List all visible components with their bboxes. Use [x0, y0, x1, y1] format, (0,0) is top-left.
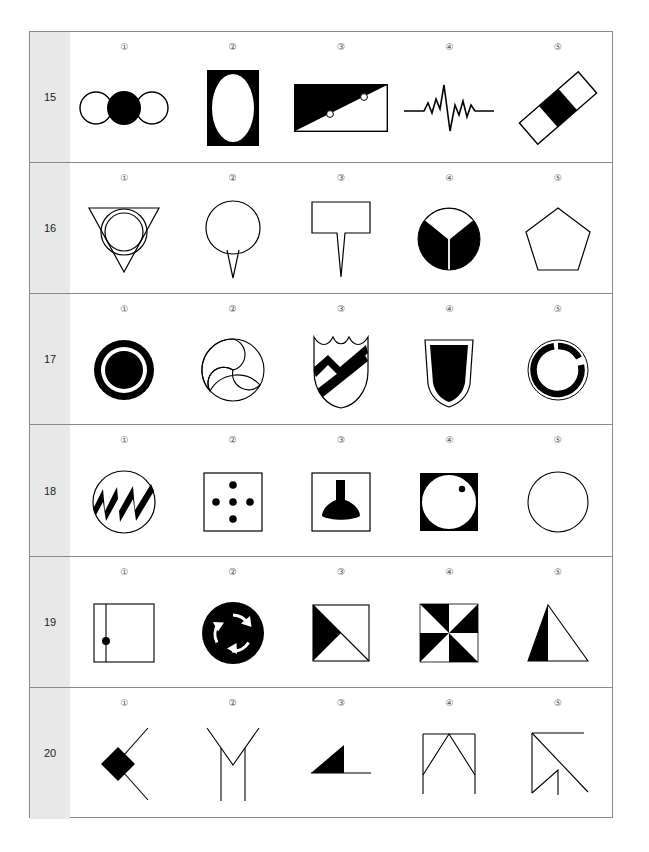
table-row: 20 ① ② [30, 688, 612, 819]
cell-15-3[interactable]: ③ [287, 32, 395, 162]
cell-15-1[interactable]: ① [70, 32, 178, 162]
double-circle-in-down-triangle-icon [70, 185, 178, 293]
column-marker: ① [120, 566, 128, 579]
white-ellipse-in-black-rectangle-icon [178, 54, 286, 162]
column-marker: ② [229, 566, 237, 579]
cell-16-1[interactable]: ① [70, 163, 178, 293]
circle-with-black-zigzag-icon [70, 447, 178, 555]
cell-19-2[interactable]: ② [178, 557, 286, 687]
column-marker: ⑤ [554, 434, 562, 447]
column-marker: ① [120, 697, 128, 710]
black-filled-shield-badge-icon [395, 316, 503, 424]
cell-17-5[interactable]: ⑤ [504, 294, 612, 424]
worksheet-page: 15 ① ② [0, 0, 649, 852]
column-marker: ① [120, 172, 128, 185]
double-stroke-y-shape-icon [178, 710, 286, 819]
column-marker: ④ [445, 697, 453, 710]
cell-17-2[interactable]: ② [178, 294, 286, 424]
column-marker: ④ [445, 434, 453, 447]
triangle-left-half-black-icon [504, 579, 612, 687]
row-number-label: 16 [30, 163, 70, 293]
square-with-five-dots-icon [178, 447, 286, 555]
row-cells: ① ② [70, 163, 612, 293]
cell-19-4[interactable]: ④ [395, 557, 503, 687]
square-with-vertical-line-and-dot-icon [70, 579, 178, 687]
column-marker: ⑤ [554, 172, 562, 185]
column-marker: ③ [337, 566, 345, 579]
column-marker: ③ [337, 697, 345, 710]
zigzag-waveform-line-icon [395, 54, 503, 162]
row-number-label: 20 [30, 688, 70, 819]
table-row: 16 ① ② [30, 163, 612, 294]
row-number-label: 15 [30, 32, 70, 162]
table-row: 15 ① ② [30, 32, 612, 163]
cell-19-5[interactable]: ⑤ [504, 557, 612, 687]
column-marker: ③ [337, 41, 345, 54]
cell-20-1[interactable]: ① [70, 688, 178, 819]
column-marker: ② [229, 41, 237, 54]
cell-15-2[interactable]: ② [178, 32, 286, 162]
circle-with-pin-tail-icon [178, 185, 286, 293]
table-row: 19 ① ② [30, 557, 612, 688]
cell-17-3[interactable]: ③ [287, 294, 395, 424]
row-number-label: 19 [30, 557, 70, 687]
cell-17-1[interactable]: ① [70, 294, 178, 424]
plain-outlined-circle-icon [504, 447, 612, 555]
column-marker: ④ [445, 566, 453, 579]
bullseye-ring-with-disc-icon [70, 316, 178, 424]
row-cells: ① ② [70, 425, 612, 555]
column-marker: ① [120, 434, 128, 447]
cell-18-2[interactable]: ② [178, 425, 286, 555]
row-number-label: 17 [30, 294, 70, 424]
column-marker: ② [229, 697, 237, 710]
triskelion-swirl-circle-icon [178, 316, 286, 424]
pinwheel-checker-square-icon [395, 579, 503, 687]
square-with-diagonals-and-stem-icon [504, 710, 612, 819]
cell-17-4[interactable]: ④ [395, 294, 503, 424]
cell-18-5[interactable]: ⑤ [504, 425, 612, 555]
column-marker: ④ [445, 172, 453, 185]
column-marker: ③ [337, 303, 345, 316]
cell-16-2[interactable]: ② [178, 163, 286, 293]
three-circles-middle-filled-icon [70, 54, 178, 162]
half-filled-rectangle-diagonal-dots-icon [287, 54, 395, 162]
cell-20-3[interactable]: ③ [287, 688, 395, 819]
row-cells: ① ② [70, 32, 612, 162]
shield-with-lightning-stripes-icon [287, 316, 395, 424]
rectangle-with-pin-tail-icon [287, 185, 395, 293]
cell-20-5[interactable]: ⑤ [504, 688, 612, 819]
black-circle-white-pie-wedge-icon [395, 185, 503, 293]
cell-20-2[interactable]: ② [178, 688, 286, 819]
white-circle-in-black-square-with-dot-icon [395, 447, 503, 555]
cell-16-4[interactable]: ④ [395, 163, 503, 293]
square-half-black-triangle-icon [287, 579, 395, 687]
shapes-table: 15 ① ② [29, 31, 613, 818]
column-marker: ⑤ [554, 303, 562, 316]
column-marker: ① [120, 41, 128, 54]
table-row: 18 ① ② [30, 425, 612, 556]
cell-18-1[interactable]: ① [70, 425, 178, 555]
column-marker: ⑤ [554, 41, 562, 54]
cell-20-4[interactable]: ④ [395, 688, 503, 819]
cell-15-5[interactable]: ⑤ [504, 32, 612, 162]
cell-16-5[interactable]: ⑤ [504, 163, 612, 293]
cell-18-4[interactable]: ④ [395, 425, 503, 555]
cell-15-4[interactable]: ④ [395, 32, 503, 162]
cell-19-3[interactable]: ③ [287, 557, 395, 687]
cell-19-1[interactable]: ① [70, 557, 178, 687]
cell-16-3[interactable]: ③ [287, 163, 395, 293]
chevron-with-black-diamond-icon [70, 710, 178, 819]
row-cells: ① ② [70, 688, 612, 819]
tilted-three-part-bar-icon [504, 54, 612, 162]
table-row: 17 ① ② [30, 294, 612, 425]
cell-18-3[interactable]: ③ [287, 425, 395, 555]
column-marker: ① [120, 303, 128, 316]
row-cells: ① ② [70, 557, 612, 687]
column-marker: ④ [445, 303, 453, 316]
column-marker: ③ [337, 172, 345, 185]
row-cells: ① ② [70, 294, 612, 424]
broken-ring-icon [504, 316, 612, 424]
column-marker: ② [229, 172, 237, 185]
column-marker: ② [229, 303, 237, 316]
square-with-black-funnel-icon [287, 447, 395, 555]
